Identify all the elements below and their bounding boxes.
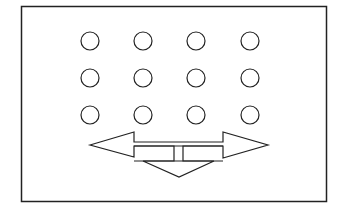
- right-connector-box: [183, 146, 223, 161]
- circle-1-1: [81, 32, 99, 50]
- circle-grid: [81, 32, 259, 124]
- circle-2-2: [134, 69, 152, 87]
- circle-1-3: [187, 32, 205, 50]
- circle-3-3: [187, 106, 205, 124]
- diagram-frame: [22, 7, 327, 202]
- circle-2-1: [81, 69, 99, 87]
- circle-2-3: [187, 69, 205, 87]
- circle-1-4: [241, 32, 259, 50]
- diagram-canvas: [0, 0, 343, 206]
- circle-3-1: [81, 106, 99, 124]
- circle-3-4: [241, 106, 259, 124]
- circle-1-2: [134, 32, 152, 50]
- left-connector-box: [134, 146, 174, 161]
- circle-3-2: [134, 106, 152, 124]
- circle-2-4: [241, 69, 259, 87]
- three-way-arrow: [90, 132, 268, 177]
- left-right-arrow-icon: [90, 132, 268, 158]
- down-arrow-icon: [143, 161, 214, 177]
